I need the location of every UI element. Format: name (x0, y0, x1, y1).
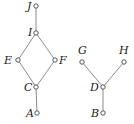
node-label-e: E (3, 54, 12, 67)
edge-i-e (18, 33, 36, 60)
node-a (35, 111, 39, 115)
nodes-group (16, 4, 126, 115)
hasse-diagram: JIEFCAGHDB (0, 0, 134, 124)
node-label-g: G (78, 44, 87, 57)
node-i (34, 31, 38, 35)
edge-f-c (36, 60, 55, 87)
node-label-j: J (25, 0, 32, 13)
node-label-a: A (25, 107, 34, 120)
node-h (122, 60, 126, 64)
node-label-d: D (89, 81, 99, 94)
edge-c-a (36, 87, 37, 113)
node-label-i: I (27, 26, 33, 39)
edge-h-d (103, 62, 124, 87)
node-f (53, 58, 57, 62)
node-c (34, 85, 38, 89)
node-label-c: C (24, 81, 33, 94)
node-label-h: H (118, 44, 129, 57)
node-label-b: B (90, 107, 99, 120)
labels-group: JIEFCAGHDB (3, 0, 129, 120)
node-e (16, 58, 20, 62)
edges-group (18, 6, 124, 113)
node-label-f: F (58, 54, 67, 67)
edge-i-f (36, 33, 55, 60)
node-b (101, 111, 105, 115)
node-j (34, 4, 38, 8)
node-d (101, 85, 105, 89)
node-g (80, 60, 84, 64)
